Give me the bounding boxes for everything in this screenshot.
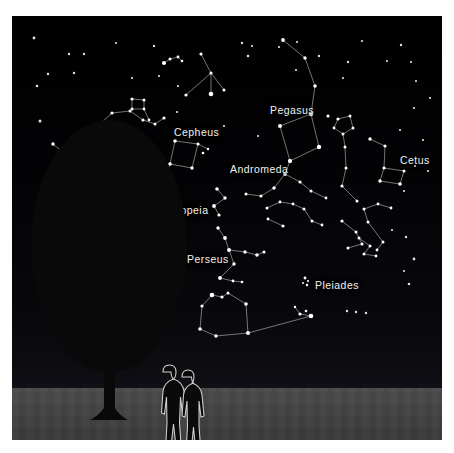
constellation-line	[200, 306, 202, 329]
star-point	[340, 184, 343, 187]
star-point	[278, 124, 282, 128]
field-star	[241, 42, 243, 44]
star-point	[148, 119, 151, 122]
label-perseus: Perseus	[187, 253, 229, 265]
field-star	[355, 311, 357, 313]
star-point	[190, 166, 193, 169]
star-point	[177, 56, 180, 59]
constellation-line	[155, 118, 164, 124]
constellation-line	[345, 147, 346, 168]
field-star	[413, 258, 416, 261]
field-star	[153, 45, 155, 47]
star-point	[220, 295, 223, 298]
star-point	[281, 224, 284, 227]
constellation-line	[246, 304, 248, 333]
constellation-line	[186, 73, 211, 95]
constellation-line	[198, 144, 208, 149]
star-point	[59, 211, 62, 214]
constellation-line	[229, 250, 245, 252]
star-point	[340, 219, 343, 222]
star-point	[181, 60, 184, 63]
star-point	[54, 172, 57, 175]
constellation-line	[343, 128, 353, 134]
constellation-line	[192, 144, 198, 168]
constellation-line	[312, 221, 322, 225]
star-point	[336, 117, 339, 120]
field-star	[391, 229, 393, 231]
field-star	[47, 73, 49, 75]
star-point	[378, 179, 381, 182]
field-star	[223, 125, 225, 127]
star-point	[326, 114, 329, 117]
star-point	[333, 127, 336, 130]
star-point	[133, 170, 136, 173]
field-star	[408, 283, 411, 286]
field-star	[73, 235, 75, 237]
constellation-line	[267, 202, 280, 208]
field-star	[257, 135, 259, 137]
star-point	[245, 193, 248, 196]
star-point	[123, 149, 126, 152]
constellation-line	[144, 109, 149, 120]
star-point	[243, 250, 246, 253]
star-point	[367, 221, 370, 224]
constellation-line	[201, 54, 211, 73]
star-point	[86, 163, 89, 166]
field-star	[158, 75, 160, 77]
star-point	[311, 220, 314, 223]
field-star	[399, 129, 401, 131]
constellation-cepheus	[160, 139, 209, 190]
constellation-line	[364, 209, 368, 222]
constellation-draco-group	[106, 149, 146, 195]
star-point	[202, 152, 205, 155]
constellation-cygnus-group	[86, 110, 166, 190]
label-andromeda: Andromeda	[230, 163, 288, 175]
constellation-line	[293, 204, 304, 209]
constellation-aries-group	[184, 52, 225, 96]
star-point	[309, 314, 314, 319]
constellation-line	[290, 147, 319, 161]
star-point	[368, 137, 371, 140]
star-point	[363, 208, 366, 211]
constellation-line	[53, 144, 64, 153]
star-point	[281, 38, 285, 42]
star-point	[90, 139, 93, 142]
constellation-ursa-major-group	[51, 142, 75, 218]
star-point	[302, 282, 304, 284]
star-point	[317, 145, 321, 149]
constellation-line	[304, 209, 312, 221]
constellation-lacerta-group	[333, 115, 359, 203]
field-stars	[33, 37, 432, 315]
star-point	[137, 182, 140, 185]
constellation-line	[380, 168, 384, 181]
constellation-line	[334, 128, 343, 134]
field-star	[405, 236, 407, 238]
field-star	[342, 77, 344, 79]
star-point	[200, 304, 203, 307]
star-point	[232, 280, 235, 283]
field-star	[176, 111, 178, 113]
star-point	[227, 248, 231, 252]
constellation-line	[217, 189, 225, 198]
star-point	[123, 161, 126, 164]
constellation-line	[54, 196, 74, 217]
star-point	[223, 196, 226, 199]
star-point	[199, 52, 202, 55]
star-point	[223, 89, 226, 92]
constellation-line	[87, 140, 91, 164]
field-star	[251, 45, 253, 47]
field-star	[109, 267, 111, 269]
star-point	[130, 97, 133, 100]
star-point	[369, 245, 372, 248]
constellation-line	[132, 99, 144, 100]
constellation-line	[124, 162, 134, 171]
star-point	[232, 262, 235, 265]
constellation-pleiades	[302, 277, 309, 287]
constellation-line	[138, 183, 145, 193]
star-point	[160, 186, 163, 189]
field-star	[403, 270, 405, 272]
constellation-line	[220, 264, 234, 278]
label-cassiopeia: Cassiopeia	[152, 204, 208, 216]
star-point	[67, 200, 70, 203]
star-point	[355, 231, 358, 234]
